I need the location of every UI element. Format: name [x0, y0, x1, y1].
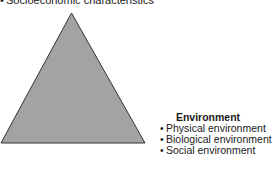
- environment-block: Environment •Physical environment •Biolo…: [160, 112, 272, 156]
- triangle-shape: [1, 13, 145, 143]
- list-item: •Social environment: [160, 145, 272, 156]
- item-text: Social environment: [166, 144, 255, 156]
- environment-list: •Physical environment •Biological enviro…: [160, 123, 272, 156]
- environment-title: Environment: [158, 112, 258, 123]
